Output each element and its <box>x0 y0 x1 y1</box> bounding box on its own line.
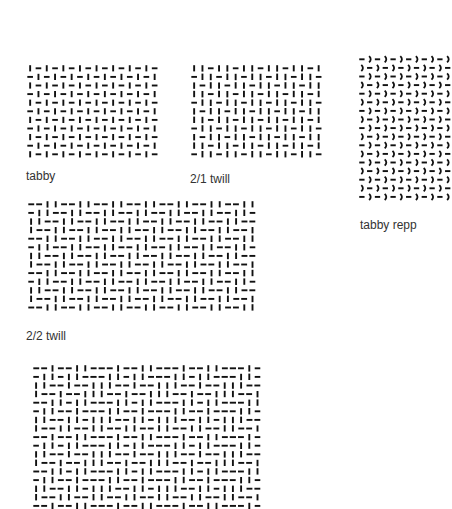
weave-pattern-tabby <box>26 64 159 159</box>
weave-pattern-bottom <box>32 364 262 509</box>
label-twill-2-2: 2/2 twill <box>26 329 66 343</box>
weave-pattern-tabby-repp <box>358 55 452 201</box>
weave-pattern-twill-2-1 <box>190 64 323 159</box>
label-twill-2-1: 2/1 twill <box>190 172 230 186</box>
label-tabby-repp: tabby repp <box>360 218 417 232</box>
label-tabby: tabby <box>26 169 55 183</box>
weave-pattern-twill-2-2 <box>27 200 257 312</box>
